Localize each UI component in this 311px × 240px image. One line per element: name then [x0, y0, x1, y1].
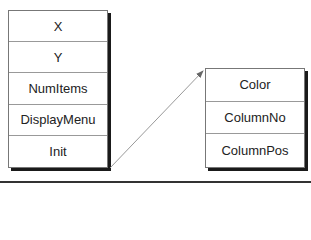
field-columnno: ColumnNo — [206, 102, 304, 135]
field-color: Color — [206, 69, 304, 102]
bottom-rule — [0, 181, 311, 183]
right-object-box: Color ColumnNo ColumnPos — [205, 68, 305, 168]
field-columnpos: ColumnPos — [206, 134, 304, 167]
